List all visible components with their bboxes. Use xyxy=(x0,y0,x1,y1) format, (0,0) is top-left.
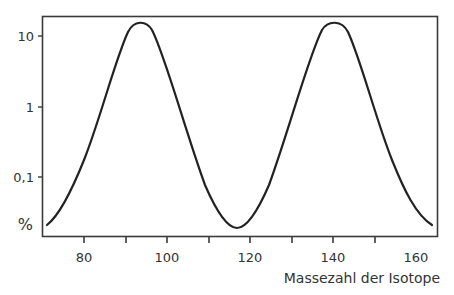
y-tick-label-10: 10 xyxy=(17,29,34,44)
x-tick-label-160: 160 xyxy=(404,250,429,265)
x-axis: 80 100 120 140 160 Massezahl der Isotope xyxy=(76,236,440,286)
x-tick-label-100: 100 xyxy=(155,250,180,265)
x-tick-label-120: 120 xyxy=(238,250,263,265)
fission-yield-chart: 10 1 0,1 % 80 100 120 140 160 Massezahl … xyxy=(0,0,454,295)
y-unit-label: % xyxy=(18,215,33,234)
plot-frame xyxy=(43,17,438,237)
x-tick-label-80: 80 xyxy=(76,250,93,265)
y-tick-label-0-1: 0,1 xyxy=(13,170,34,185)
x-tick-label-140: 140 xyxy=(321,250,346,265)
y-axis: 10 1 0,1 % xyxy=(13,29,43,234)
yield-curve xyxy=(47,23,432,228)
y-tick-label-1: 1 xyxy=(26,100,34,115)
x-axis-title: Massezahl der Isotope xyxy=(284,270,440,286)
